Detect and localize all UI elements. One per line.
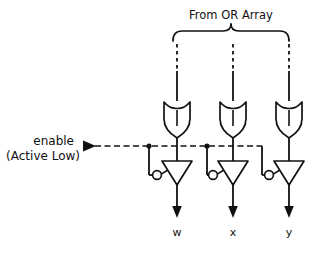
or-gate-x <box>220 102 246 138</box>
or-array-brace <box>173 24 289 41</box>
output-label-w: w <box>173 226 182 239</box>
signal-column-y: y <box>262 44 304 239</box>
signal-column-x: x <box>204 44 248 239</box>
or-gate-w <box>164 102 190 138</box>
output-arrowhead-w <box>172 206 182 218</box>
enable-bubble-stub-w <box>161 171 167 175</box>
enable-bubble-stub-y <box>273 171 279 175</box>
tristate-buffer-y <box>265 161 304 185</box>
pld-output-stage-diagram: From OR Array <box>0 0 320 254</box>
tristate-buffer-x <box>209 161 248 185</box>
enable-bubble-x <box>209 171 218 180</box>
enable-bubble-y <box>265 171 274 180</box>
tristate-buffer-w <box>153 161 192 185</box>
enable-label-line2: (Active Low) <box>6 149 80 163</box>
output-arrowhead-x <box>228 206 238 218</box>
signal-column-w: w <box>146 44 192 239</box>
output-arrowhead-y <box>284 206 294 218</box>
or-gate-y <box>276 102 302 138</box>
enable-bubble-w <box>153 171 162 180</box>
diagram-canvas: From OR Array <box>0 0 320 254</box>
enable-input-arrow <box>83 141 96 152</box>
enable-label-line1: enable <box>33 134 74 148</box>
output-label-y: y <box>286 226 293 239</box>
from-or-array-label: From OR Array <box>189 8 273 22</box>
enable-bubble-stub-x <box>217 171 223 175</box>
output-label-x: x <box>230 226 237 239</box>
